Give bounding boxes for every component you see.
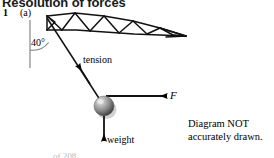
truss-structure-icon [47,13,186,37]
diagram-accuracy-note: Diagram NOT accurately drawn. [188,118,263,143]
diagram-accuracy-note-line2: accurately drawn. [188,131,263,144]
diagram-accuracy-note-line1: Diagram NOT [188,118,263,131]
sphere-mass-icon [94,96,117,119]
angle-label: 40° [31,37,45,48]
weight-label: weight [107,134,134,145]
tension-arrow-icon [78,65,90,84]
tension-label: tension [83,54,112,65]
force-label: F [170,90,177,101]
footer-page-indicator: of 208 [53,151,76,158]
diagram-page: Resolution of forces 1 (a) [0,0,274,158]
